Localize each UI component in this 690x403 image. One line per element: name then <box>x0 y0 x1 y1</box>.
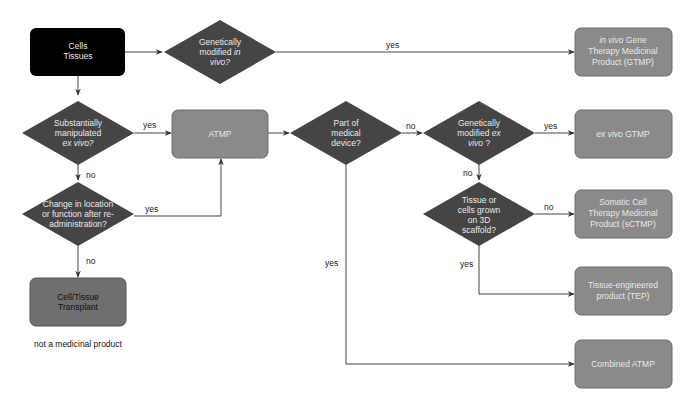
scaffold-line-4: scaffold? <box>462 225 496 235</box>
label-manipulated-yes: yes <box>143 120 156 130</box>
ex-vivo-line-2: modified ex <box>457 128 501 138</box>
location-line-1: Change in location <box>43 199 114 209</box>
label-location-yes: yes <box>145 204 158 214</box>
label-location-no: no <box>86 256 96 266</box>
device-line-2: medical <box>331 128 360 138</box>
label-ex-vivo-no: no <box>463 168 473 178</box>
gtmp-line-2: Therapy Medicinal <box>588 46 658 56</box>
ex-vivo-gtmp-label: ex vivo GTMP <box>596 129 650 139</box>
label-scaffold-no: no <box>544 202 554 212</box>
manipulated-line-1: Substantially <box>54 118 103 128</box>
outcome-transplant: Cell/Tissue Transplant <box>30 278 126 326</box>
outcome-combined-atmp: Combined ATMP <box>575 340 672 388</box>
ex-vivo-line-3: vivo ? <box>468 138 490 148</box>
decision-in-vivo: Genetically modified in vivo? <box>164 20 276 84</box>
transplant-line-1: Cell/Tissue <box>57 292 99 302</box>
decision-scaffold: Tissue or cells grown on 3D scaffold? <box>423 182 535 246</box>
device-line-3: device? <box>331 138 361 148</box>
ex-vivo-line-1: Genetically <box>458 118 501 128</box>
combined-atmp-label: Combined ATMP <box>591 359 655 369</box>
label-device-no: no <box>406 121 416 131</box>
manipulated-line-2: manipulated <box>55 128 102 138</box>
outcome-tep: Tissue-engineered product (TEP) <box>575 267 672 315</box>
gtmp-line-1: in vivo Gene <box>599 35 647 45</box>
tep-line-1: Tissue-engineered <box>588 280 658 290</box>
node-atmp: ATMP <box>172 110 268 158</box>
label-scaffold-yes: yes <box>460 259 473 269</box>
node-start: Cells Tissues <box>30 28 125 76</box>
label-manipulated-no: no <box>86 170 96 180</box>
in-vivo-line-1: Genetically <box>199 37 242 47</box>
decision-ex-vivo: Genetically modified ex vivo ? <box>423 101 535 165</box>
location-line-3: administration? <box>49 219 107 229</box>
edge-scaffold-yes <box>479 244 574 294</box>
start-line-2: Tissues <box>64 51 93 61</box>
scaffold-line-3: on 3D <box>468 215 491 225</box>
outcome-ex-vivo-gtmp: ex vivo GTMP <box>575 110 672 158</box>
decision-manipulated: Substantially manipulated ex vivo? <box>22 101 134 165</box>
decision-device: Part of medical device? <box>290 101 402 165</box>
transplant-line-2: Transplant <box>58 302 98 312</box>
flowchart: yes yes no yes no no yes yes no no yes C… <box>0 0 690 403</box>
in-vivo-line-2: modified in <box>199 47 240 57</box>
device-line-1: Part of <box>333 118 359 128</box>
sctmp-line-3: Product (sCTMP) <box>590 219 656 229</box>
start-line-1: Cells <box>69 41 88 51</box>
gtmp-line-3: Product (GTMP) <box>592 57 654 67</box>
sctmp-line-2: Therapy Medicinal <box>588 208 658 218</box>
tep-line-2: product (TEP) <box>597 291 650 301</box>
manipulated-line-3: ex vivo? <box>62 138 93 148</box>
atmp-label: ATMP <box>209 129 232 139</box>
outcome-sctmp: Somatic Cell Therapy Medicinal Product (… <box>575 190 672 238</box>
decision-location: Change in location or function after re-… <box>22 182 134 246</box>
location-line-2: or function after re- <box>42 209 114 219</box>
in-vivo-line-3: vivo? <box>210 57 230 67</box>
sctmp-line-1: Somatic Cell <box>599 197 647 207</box>
outcome-gtmp: in vivo Gene Therapy Medicinal Product (… <box>575 28 672 76</box>
scaffold-line-2: cells grown <box>458 205 501 215</box>
scaffold-line-1: Tissue or <box>462 195 497 205</box>
label-ex-vivo-yes: yes <box>544 121 557 131</box>
label-in-vivo-yes: yes <box>386 40 399 50</box>
transplant-note: not a medicinal product <box>34 339 123 349</box>
label-device-yes: yes <box>325 258 338 268</box>
